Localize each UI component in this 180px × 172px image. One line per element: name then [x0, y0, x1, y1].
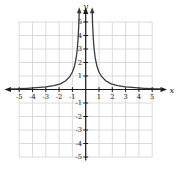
y-tick-label: -2	[75, 113, 82, 121]
y-tick-label: -3	[75, 126, 82, 134]
graph-canvas: -5-4-3-2-11234554321-1-2-3-4-5 x y	[0, 0, 180, 172]
x-tick-label: 5	[150, 93, 154, 101]
x-tick-label: -4	[29, 93, 36, 101]
x-tick-label: -3	[42, 93, 49, 101]
y-tick-label: -5	[75, 153, 82, 161]
y-axis-label: y	[83, 2, 89, 11]
function-graph-figure: -5-4-3-2-11234554321-1-2-3-4-5 x y	[0, 0, 180, 172]
x-tick-label: -2	[56, 93, 63, 101]
x-axis-label: x	[170, 86, 175, 95]
y-tick-label: 3	[78, 45, 82, 53]
x-tick-label: 2	[110, 93, 114, 101]
axes	[5, 8, 168, 161]
x-tick-label: 3	[123, 93, 127, 101]
left-branch	[10, 11, 79, 89]
x-tick-label: 4	[137, 93, 141, 101]
x-tick-label: -5	[16, 93, 23, 101]
right-branch	[92, 11, 161, 89]
x-tick-label: 1	[97, 93, 101, 101]
y-tick-label: 1	[78, 72, 82, 80]
y-tick-label: -1	[75, 99, 82, 107]
y-tick-label: -4	[75, 140, 82, 148]
y-tick-label: 2	[78, 59, 82, 67]
